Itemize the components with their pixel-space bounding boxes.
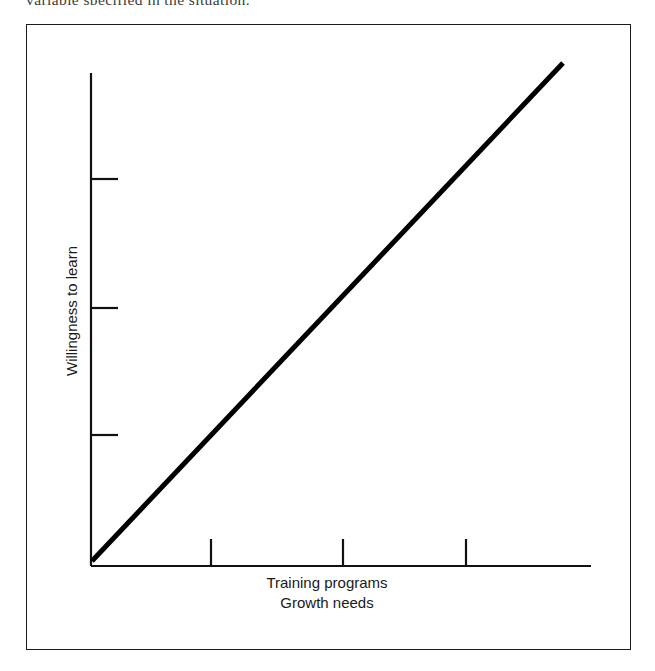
data-series-line (92, 63, 563, 561)
chart-svg (27, 25, 632, 651)
plot-area: Willingness to learn Training programs G… (27, 25, 630, 649)
figure-frame: Willingness to learn Training programs G… (26, 24, 631, 650)
x-axis-title-line-2: Growth needs (177, 593, 477, 613)
y-axis-title: Willingness to learn (61, 201, 83, 421)
x-axis-title: Training programs Growth needs (177, 573, 477, 613)
page-top-caption-text: variable specified in the situation. (26, 0, 356, 5)
x-axis-title-line-1: Training programs (177, 573, 477, 593)
